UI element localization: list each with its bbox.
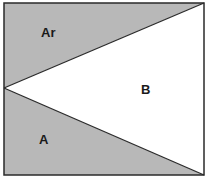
label-ar: Ar — [41, 25, 55, 40]
label-b: B — [141, 82, 150, 97]
label-a: A — [39, 132, 49, 147]
region-diagram: Ar B A — [0, 0, 207, 179]
